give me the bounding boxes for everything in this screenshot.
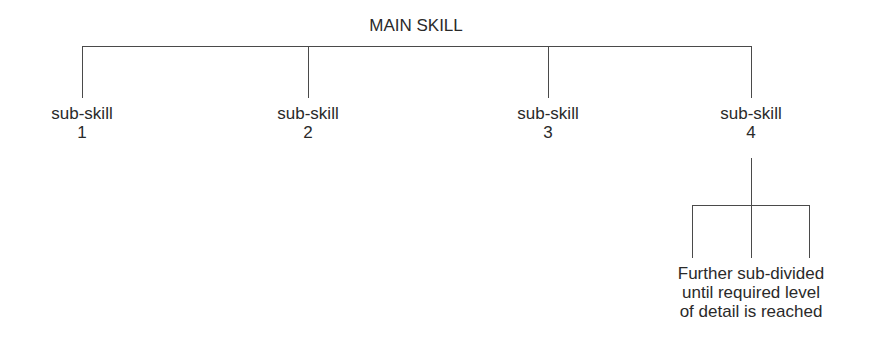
sub-skill-label: sub-skill xyxy=(517,104,578,123)
sub4-connector xyxy=(692,205,810,206)
sub4-branch-left xyxy=(692,205,693,258)
stem-2 xyxy=(308,46,309,98)
sub-skill-number: 1 xyxy=(51,123,112,142)
sub-skill-4: sub-skill 4 xyxy=(720,104,781,142)
sub-skill-2: sub-skill 2 xyxy=(277,104,338,142)
leaf-note: Further sub-divided until required level… xyxy=(678,264,824,321)
leaf-note-line: of detail is reached xyxy=(678,302,824,321)
sub-skill-number: 2 xyxy=(277,123,338,142)
stem-4 xyxy=(751,46,752,98)
sub-skill-1: sub-skill 1 xyxy=(51,104,112,142)
main-skill-title: MAIN SKILL xyxy=(369,16,463,36)
sub4-branch-right xyxy=(809,205,810,258)
stem-1 xyxy=(82,46,83,98)
leaf-note-line: Further sub-divided xyxy=(678,264,824,283)
sub-skill-number: 4 xyxy=(720,123,781,142)
sub-skill-label: sub-skill xyxy=(277,104,338,123)
stem-3 xyxy=(548,46,549,98)
sub-skill-label: sub-skill xyxy=(720,104,781,123)
sub4-stem xyxy=(751,158,752,258)
sub-skill-label: sub-skill xyxy=(51,104,112,123)
sub-skill-number: 3 xyxy=(517,123,578,142)
sub-skill-3: sub-skill 3 xyxy=(517,104,578,142)
leaf-note-line: until required level xyxy=(678,283,824,302)
top-connector xyxy=(82,46,752,47)
